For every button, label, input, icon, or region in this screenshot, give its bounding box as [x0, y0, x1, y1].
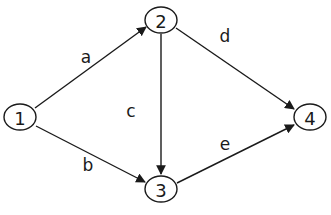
node-3: 3 — [145, 176, 177, 202]
edge-a: a — [35, 27, 146, 108]
node-4: 4 — [294, 104, 326, 130]
edge-e-arrow — [177, 125, 294, 183]
edge-e: e — [177, 125, 294, 183]
edge-c-label: c — [126, 101, 135, 121]
edge-b-label: b — [83, 155, 94, 175]
node-1: 1 — [4, 104, 36, 130]
node-4-label: 4 — [304, 108, 315, 129]
directed-graph-diagram: a b c d e 1 2 3 4 — [0, 0, 331, 215]
node-2-label: 2 — [155, 11, 166, 32]
edge-c: c — [126, 34, 161, 174]
edge-b: b — [36, 126, 145, 182]
edge-a-label: a — [81, 47, 91, 67]
edge-e-label: e — [220, 134, 230, 154]
edge-d-arrow — [176, 28, 294, 109]
edge-d-label: d — [220, 26, 231, 46]
edge-d: d — [176, 26, 294, 109]
node-2: 2 — [145, 7, 177, 33]
node-3-label: 3 — [155, 180, 166, 201]
node-1-label: 1 — [14, 108, 25, 129]
edge-a-arrow — [35, 27, 146, 108]
